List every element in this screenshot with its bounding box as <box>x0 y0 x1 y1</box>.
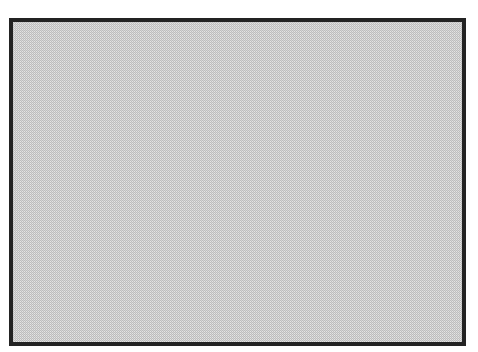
dithered-pattern-box <box>9 18 466 346</box>
box-text <box>13 22 14 23</box>
